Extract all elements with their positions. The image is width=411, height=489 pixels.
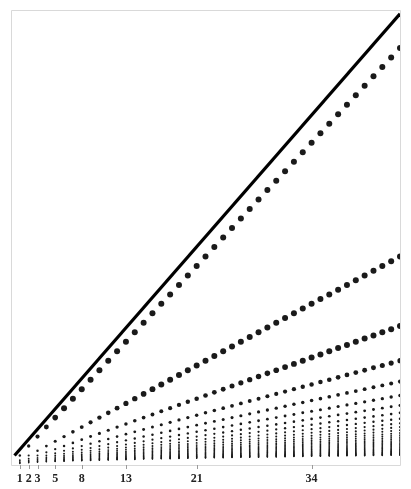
- x-tick-label-34: 34: [306, 472, 318, 484]
- divisor-plot-figure: 12358132134: [0, 0, 411, 489]
- x-tick-label-13: 13: [120, 472, 132, 484]
- x-tick-label-5: 5: [52, 472, 58, 484]
- x-tick-label-21: 21: [191, 472, 203, 484]
- x-tick-label-3: 3: [35, 472, 41, 484]
- x-tick-label-8: 8: [79, 472, 85, 484]
- x-tick-label-2: 2: [26, 472, 32, 484]
- x-tick-label-1: 1: [17, 472, 23, 484]
- scatter-plot-canvas: [0, 0, 411, 489]
